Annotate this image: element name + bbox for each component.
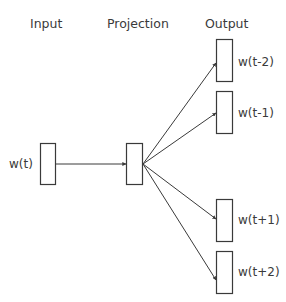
edge-projection-to-t+2 — [143, 164, 216, 280]
output-node-label-t-2: w(t-2) — [238, 55, 274, 69]
output-node-box-t+1 — [217, 200, 233, 242]
projection-node-box — [127, 144, 143, 185]
edge-projection-to-t-2 — [143, 63, 216, 164]
output-node-box-t+2 — [217, 252, 233, 294]
output-node-label-t+2: w(t+2) — [238, 265, 280, 279]
output-header: Output — [205, 17, 248, 31]
output-node-label-t+1: w(t+1) — [238, 213, 280, 227]
output-node-box-t-2 — [217, 40, 233, 82]
input-node-box — [41, 144, 56, 185]
diagram-canvas — [0, 0, 286, 302]
projection-header: Projection — [107, 17, 169, 31]
output-node-box-t-1 — [217, 92, 233, 134]
edge-projection-to-t+1 — [143, 164, 216, 219]
input-header: Input — [30, 17, 62, 31]
skip-gram-diagram: Input Projection Output w(t) w(t-2) w(t-… — [0, 0, 286, 302]
input-node-label: w(t) — [9, 157, 33, 171]
edge-projection-to-t-1 — [143, 113, 216, 164]
output-node-label-t-1: w(t-1) — [238, 106, 274, 120]
